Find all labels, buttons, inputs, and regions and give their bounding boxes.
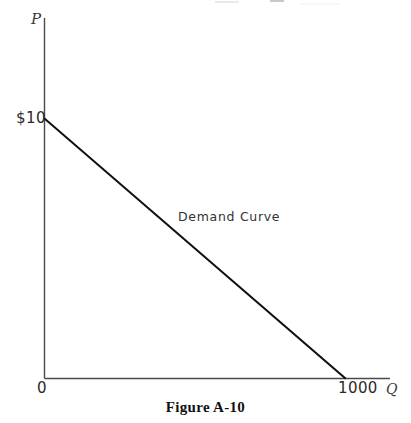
origin-label: 0 <box>37 381 47 396</box>
y-axis-tick-label-10: $10 <box>16 111 46 126</box>
figure-caption: Figure A-10 <box>0 399 411 416</box>
x-axis-label: Q <box>386 382 397 396</box>
demand-curve-annotation: Demand Curve <box>178 211 280 224</box>
demand-curve-line <box>45 119 345 378</box>
figure-page: P Q $10 0 1000 Demand Curve Figure A-10 <box>0 0 411 423</box>
x-axis-tick-label-1000: 1000 <box>338 381 378 396</box>
y-axis-label: P <box>31 12 41 27</box>
